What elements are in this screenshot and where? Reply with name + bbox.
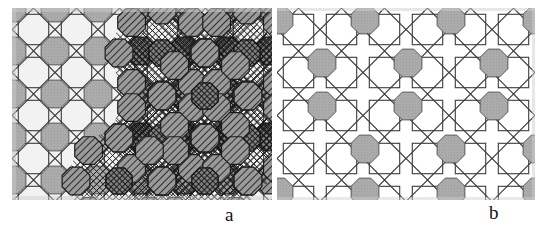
rosette-petal-disc — [222, 52, 250, 80]
tiling-disc — [437, 135, 465, 163]
rosette-core-disc — [106, 168, 132, 194]
figure-container: a b — [0, 0, 544, 238]
rosette-petal-disc — [203, 9, 231, 37]
rosette-petal-disc — [136, 137, 164, 165]
rosette-petal-disc — [161, 137, 189, 165]
tiling-disc — [351, 178, 379, 200]
tiling-disc — [394, 49, 422, 77]
panel-a-drawing — [12, 8, 272, 200]
tiling-disc — [351, 8, 379, 34]
rosette-petal-disc — [148, 82, 176, 110]
tiling-disc — [437, 8, 465, 34]
rosette-petal-disc — [222, 137, 250, 165]
rosette-core-disc — [192, 168, 218, 194]
rosette-petal-disc — [179, 9, 207, 37]
tiling-disc — [437, 178, 465, 200]
tiling-disc — [394, 92, 422, 120]
rosette-petal-disc — [105, 124, 133, 152]
rosette-petal-disc — [75, 137, 103, 165]
rosette-petal-disc — [62, 167, 90, 195]
tiling-disc — [351, 135, 379, 163]
rosette-petal-disc — [191, 39, 219, 67]
tiling-disc — [308, 49, 336, 77]
rosette-petal-disc — [222, 113, 250, 141]
rosette-petal-disc — [191, 124, 219, 152]
rosette-petal-disc — [105, 39, 133, 67]
tiling-disc — [308, 92, 336, 120]
tiling-disc — [480, 49, 508, 77]
panel-b-drawing — [277, 8, 535, 200]
rosette-petal-disc — [161, 113, 189, 141]
panel-a-caption: a — [225, 205, 233, 224]
panel-a — [12, 8, 272, 200]
rosette-petal-disc — [118, 9, 146, 37]
rosette-petal-disc — [161, 52, 189, 80]
rosette-petal-disc — [118, 70, 146, 98]
tiling-disc — [480, 92, 508, 120]
panel-b-caption: b — [489, 203, 499, 222]
rosette-petal-disc — [234, 82, 262, 110]
rosette-core-disc — [192, 83, 218, 109]
panel-b — [277, 8, 535, 200]
tiling-disc — [41, 37, 69, 65]
rosette-petal-disc — [118, 94, 146, 122]
rosette-petal-disc — [148, 167, 176, 195]
rosette-petal-disc — [234, 167, 262, 195]
tiling-disc — [41, 80, 69, 108]
